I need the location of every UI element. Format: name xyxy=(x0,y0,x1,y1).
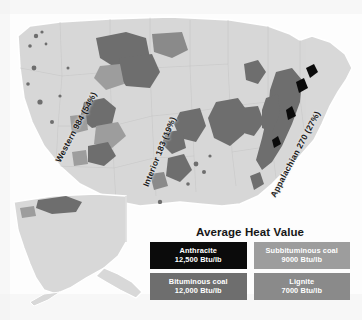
legend-cell-value: 12,000 Btu/lb xyxy=(152,286,245,295)
legend-cell-value: 7000 Btu/lb xyxy=(256,286,349,295)
legend-cell-name: Lignite xyxy=(256,277,349,286)
alaska-inset xyxy=(14,194,142,306)
legend-grid: Anthracite 12,500 Btu/lb Subbituminous c… xyxy=(150,242,350,300)
coal-regions-figure: Western 984 (54%) Interior 183 (19%) App… xyxy=(0,0,362,320)
legend-cell-subbituminous-coal: Subbituminous coal 9000 Btu/lb xyxy=(254,242,351,269)
legend-cell-lignite: Lignite 7000 Btu/lb xyxy=(254,273,351,300)
legend-title: Average Heat Value xyxy=(150,226,350,238)
legend-cell-name: Anthracite xyxy=(152,246,245,255)
heat-value-legend: Average Heat Value Anthracite 12,500 Btu… xyxy=(150,226,350,300)
legend-cell-anthracite: Anthracite 12,500 Btu/lb xyxy=(150,242,247,269)
legend-cell-value: 9000 Btu/lb xyxy=(256,255,349,264)
legend-cell-name: Subbituminous coal xyxy=(256,246,349,255)
legend-cell-value: 12,500 Btu/lb xyxy=(152,255,245,264)
legend-cell-name: Bituminous coal xyxy=(152,277,245,286)
legend-cell-bituminous-coal: Bituminous coal 12,000 Btu/lb xyxy=(150,273,247,300)
